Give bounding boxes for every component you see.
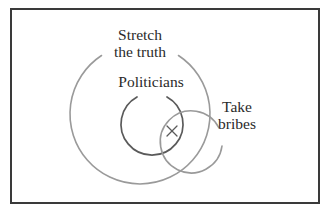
label-stretch-the-truth: Stretch the truth [102,26,178,60]
label-stretch-line-2: the truth [102,43,178,60]
circle-politicians [121,97,183,155]
label-bribes-line-2: bribes [211,115,263,132]
label-take-bribes: Take bribes [211,98,263,132]
label-politicians: Politicians [108,73,194,90]
label-bribes-line-1: Take [211,98,263,115]
x-marker-icon [167,126,177,136]
label-stretch-line-1: Stretch [102,26,178,43]
